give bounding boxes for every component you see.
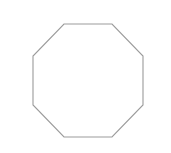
octagon-shape: [33, 24, 143, 137]
drawing-canvas: [0, 0, 171, 153]
shape-canvas-svg: [0, 0, 171, 153]
